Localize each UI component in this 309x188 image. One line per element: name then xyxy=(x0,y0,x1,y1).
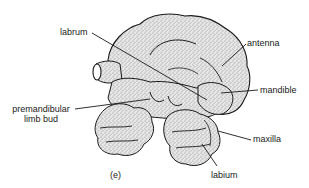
left-lower-lobes xyxy=(95,104,153,156)
embryo-diagram: labrum antenna mandible premandibular li… xyxy=(0,0,309,188)
label-premandibular-line2: limb bud xyxy=(6,114,76,124)
label-mandible: mandible xyxy=(260,85,297,95)
leader-maxilla xyxy=(218,131,251,140)
label-maxilla: maxilla xyxy=(253,134,281,144)
label-antenna: antenna xyxy=(247,38,280,48)
right-lower-lobes xyxy=(164,110,220,166)
label-labium: labium xyxy=(211,170,238,180)
label-premandibular-line1: premandibular xyxy=(6,104,76,114)
label-premandibular-limb-bud: premandibular limb bud xyxy=(6,104,76,124)
panel-label: (e) xyxy=(110,170,121,180)
label-labrum: labrum xyxy=(60,27,88,37)
